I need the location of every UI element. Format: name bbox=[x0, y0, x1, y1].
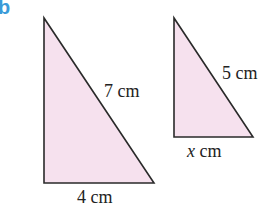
small-hypotenuse-label: 5 cm bbox=[222, 63, 258, 83]
similar-triangles-diagram: 7 cm 4 cm 5 cm x cm bbox=[0, 0, 276, 206]
small-base-label: x cm bbox=[186, 141, 222, 161]
large-hypotenuse-label: 7 cm bbox=[104, 81, 140, 101]
variable-x: x bbox=[186, 141, 195, 161]
large-base-label: 4 cm bbox=[77, 187, 113, 206]
unit: cm bbox=[195, 141, 222, 161]
